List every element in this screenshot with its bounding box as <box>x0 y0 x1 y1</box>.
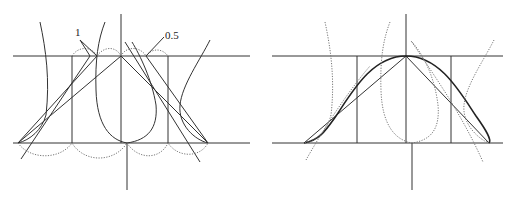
left-slope-line <box>18 56 121 143</box>
center-dotted-loop <box>381 22 438 143</box>
left-outer-dotted-curve <box>304 22 333 143</box>
right-slope-line <box>406 56 489 143</box>
right-panel <box>272 14 503 190</box>
left-tangent-line-2 <box>18 56 97 143</box>
label-0.5-leader <box>146 37 164 56</box>
label-0.5: 0.5 <box>165 29 179 41</box>
right-slope-line <box>121 56 208 143</box>
diagram-canvas: 1 0.5 <box>0 0 506 198</box>
left-slope-line <box>304 56 406 143</box>
left-tangent-line-1 <box>21 56 90 159</box>
right-tangent-line-1 <box>125 42 200 162</box>
bottom-dotted-arcs <box>18 143 208 158</box>
left-outer-curve <box>18 22 48 143</box>
right-outer-dotted-curve <box>464 40 494 143</box>
right-outer-curve <box>180 40 210 143</box>
right-dotted-tangent <box>412 42 483 162</box>
left-panel: 1 0.5 <box>13 14 250 190</box>
label-1: 1 <box>75 26 81 38</box>
